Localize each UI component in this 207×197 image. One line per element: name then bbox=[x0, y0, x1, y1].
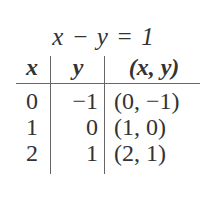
cell-xy: (1, 0) bbox=[114, 113, 204, 141]
cell-y: 0 bbox=[52, 113, 98, 141]
cell-y: 1 bbox=[52, 139, 98, 167]
cell-x: 0 bbox=[16, 87, 48, 115]
cell-x: 1 bbox=[16, 113, 48, 141]
header-divider bbox=[16, 83, 200, 84]
header-xy: (x, y) bbox=[104, 53, 204, 81]
cell-y: −1 bbox=[52, 87, 98, 115]
equation-title: x − y = 1 bbox=[0, 22, 207, 52]
column-divider-1 bbox=[50, 56, 51, 174]
header-x: x bbox=[16, 53, 48, 81]
cell-xy: (0, −1) bbox=[114, 87, 204, 115]
cell-x: 2 bbox=[16, 139, 48, 167]
header-y: y bbox=[52, 53, 104, 81]
cell-xy: (2, 1) bbox=[114, 139, 204, 167]
column-divider-2 bbox=[104, 56, 105, 174]
